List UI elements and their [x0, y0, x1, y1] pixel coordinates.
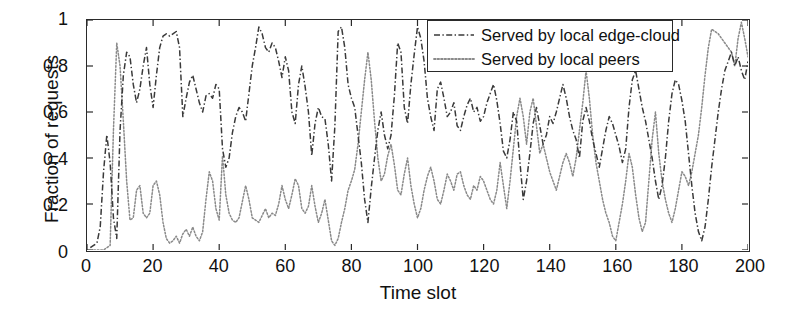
x-tick-label: 60	[255, 256, 315, 277]
x-tick-label: 20	[122, 256, 182, 277]
legend-swatch-dotted-icon	[433, 53, 475, 65]
x-tick-label: 40	[189, 256, 249, 277]
legend-label-local-peers: Served by local peers	[481, 51, 640, 67]
chart-figure: Fraction of requests 1 0.8 0.6 0.4 0.2 0…	[0, 0, 790, 316]
legend-entry-edge-cloud: Served by local edge-cloud	[433, 23, 667, 47]
x-tick-label: 200	[720, 256, 780, 277]
x-tick-label: 180	[654, 256, 714, 277]
legend-entry-local-peers: Served by local peers	[433, 47, 667, 71]
y-tick-label: 0.4	[8, 148, 68, 169]
x-tick-label: 120	[454, 256, 514, 277]
x-axis-label: Time slot	[86, 282, 750, 304]
x-tick-label: 160	[587, 256, 647, 277]
legend-label-edge-cloud: Served by local edge-cloud	[481, 27, 680, 43]
chart-legend: Served by local edge-cloud Served by loc…	[427, 20, 673, 72]
x-tick-label: 140	[521, 256, 581, 277]
y-tick-label: 0.2	[8, 195, 68, 216]
x-tick-label: 100	[388, 256, 448, 277]
legend-swatch-dash-dot-icon	[433, 29, 475, 41]
y-tick-label: 0.6	[8, 102, 68, 123]
x-tick-label: 0	[56, 256, 116, 277]
y-tick-label: 1	[8, 9, 68, 30]
x-tick-label: 80	[322, 256, 382, 277]
y-tick-label: 0.8	[8, 55, 68, 76]
